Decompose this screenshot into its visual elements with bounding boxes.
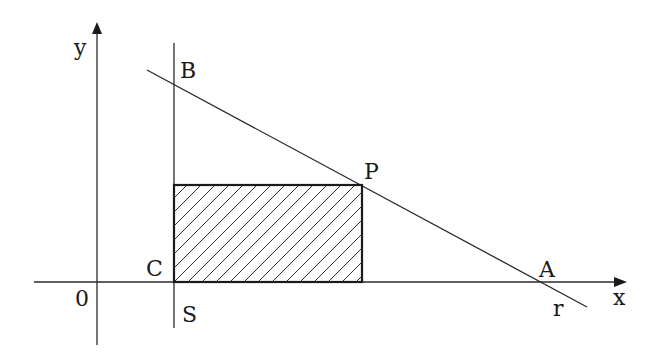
label-p: P: [364, 159, 379, 184]
label-x: x: [613, 285, 626, 310]
label-s: S: [182, 302, 197, 327]
label-origin: 0: [75, 286, 89, 311]
label-a: A: [538, 257, 556, 282]
label-y: y: [73, 35, 87, 60]
label-r: r: [553, 296, 564, 321]
geometry-diagram: y x 0 B P C A S r: [0, 0, 653, 357]
label-b: B: [180, 58, 196, 83]
label-c: C: [146, 256, 163, 281]
y-axis-arrow-icon: [92, 22, 102, 34]
